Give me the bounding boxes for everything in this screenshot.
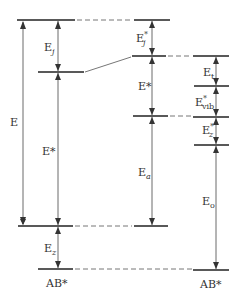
energy-diagram: E Ej E* Ez AB* E*j E* Ea Et E*vib E*z Eo… (0, 0, 241, 299)
label-Ej-star: E*j (136, 30, 148, 47)
label-Estar-left: E* (42, 145, 56, 158)
label-Ej: Ej (44, 41, 55, 56)
label-Evib: E*vib (195, 94, 214, 111)
connector-slant (85, 57, 131, 72)
label-Et: Et (203, 66, 215, 81)
label-E0: Eo (202, 195, 215, 210)
label-Ez: Ez (44, 242, 57, 257)
label-Estar-mid: E* (138, 80, 152, 93)
label-E: E (10, 116, 18, 129)
label-AB-left: AB* (45, 277, 68, 290)
label-Ea: Ea (138, 166, 151, 181)
label-AB-right: AB* (199, 278, 222, 291)
label-Ez-star: E*z (202, 122, 214, 139)
